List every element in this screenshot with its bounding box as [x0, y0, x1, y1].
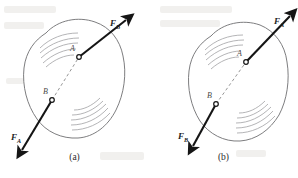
caption-a: (a)	[0, 152, 149, 162]
panel-a: (a)	[0, 0, 149, 178]
panel-b: (b)	[149, 0, 298, 178]
figure-container: FB FA A B FA FB A B (a) (b)	[0, 0, 298, 178]
caption-b: (b)	[149, 152, 298, 162]
